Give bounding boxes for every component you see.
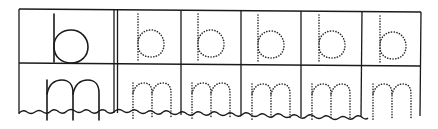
worksheet: Letter tracing practice (0, 0, 438, 129)
trace-letter-b (380, 16, 406, 62)
trace-letter-b (258, 15, 284, 61)
trace-letter-m (192, 83, 230, 119)
trace-letter-m (312, 84, 350, 120)
trace-letter-m (373, 84, 411, 120)
trace-letter-m (252, 84, 290, 120)
trace-letter-b (198, 14, 224, 60)
trace-letter-m (133, 83, 171, 119)
row-divider (19, 63, 421, 66)
torn-bottom-edge (19, 110, 368, 120)
column-divider (361, 11, 362, 117)
trace-letter-b (319, 15, 345, 61)
model-letter-m (47, 80, 99, 120)
trace-letter-b (138, 14, 164, 60)
top-border (19, 9, 421, 12)
model-letter-b (54, 14, 88, 63)
tracing-grid (0, 0, 438, 129)
right-border (420, 12, 421, 116)
